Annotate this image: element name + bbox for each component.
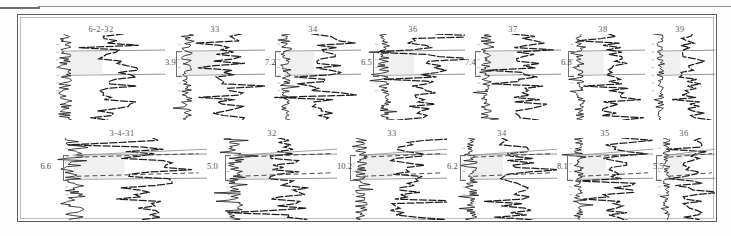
interval-thickness-value: 7.2 xyxy=(265,57,276,67)
log-panel[interactable]: 6-2-32 xyxy=(37,16,165,120)
panel-header-label: 34 xyxy=(447,128,557,138)
resistivity-trace xyxy=(487,34,553,120)
log-panel[interactable]: 333.9 xyxy=(165,16,265,120)
marked-interval-shading xyxy=(285,51,314,75)
panel-header-label: 32 xyxy=(207,128,337,138)
panel-header-label: 37 xyxy=(465,24,561,34)
panel-header-label: 3-4-31 xyxy=(37,128,207,138)
interval-thickness-value: 5.0 xyxy=(207,161,218,171)
interval-bracket xyxy=(475,51,481,77)
log-panel[interactable]: 377.4 xyxy=(465,16,561,120)
interval-thickness-value: 6.5 xyxy=(361,57,372,67)
log-panel[interactable]: 358.1 xyxy=(557,120,653,220)
panel-header-label: 6-2-32 xyxy=(37,24,165,34)
resistivity-trace xyxy=(672,34,711,120)
plate-content: 6-2-32333.9347.2366.5377.4386.839 3-4-31… xyxy=(19,16,715,220)
panel-row-2: 3-4-316.6325.03310.2346.2358.1365.5 xyxy=(19,120,715,220)
log-panel[interactable]: 3-4-316.6 xyxy=(37,120,207,220)
panel-header-label: 36 xyxy=(653,128,715,138)
log-panel[interactable]: 365.5 xyxy=(653,120,715,220)
interval-bracket xyxy=(460,155,466,181)
marked-interval-shading xyxy=(186,51,216,75)
interval-bracket xyxy=(373,51,379,77)
log-panel[interactable]: 325.0 xyxy=(207,120,337,220)
panel-row-1: 6-2-32333.9347.2366.5377.4386.839 xyxy=(19,16,715,120)
resistivity-trace xyxy=(577,34,644,120)
panel-header-label: 33 xyxy=(337,128,447,138)
log-trace-area xyxy=(653,138,715,220)
interval-bracket xyxy=(275,51,281,77)
depth-scale xyxy=(56,44,59,91)
figure-root: 6-2-32333.9347.2366.5377.4386.839 3-4-31… xyxy=(0,0,731,236)
log-panel[interactable]: 346.2 xyxy=(447,120,557,220)
resistivity-trace xyxy=(79,34,139,120)
marked-interval-shading xyxy=(73,155,124,179)
log-panel[interactable]: 3310.2 xyxy=(337,120,447,220)
log-panel[interactable]: 347.2 xyxy=(265,16,361,120)
log-trace-area xyxy=(37,34,165,120)
panel-header-label: 34 xyxy=(265,24,361,34)
interval-bracket xyxy=(567,155,573,181)
interval-thickness-value: 6.8 xyxy=(561,57,572,67)
log-panel[interactable]: 39 xyxy=(645,16,715,120)
panel-header-label: 33 xyxy=(165,24,265,34)
correlation-datum-line xyxy=(63,50,165,51)
marked-interval-shading xyxy=(470,155,503,179)
log-panel[interactable]: 386.8 xyxy=(561,16,645,120)
panel-header-label: 35 xyxy=(557,128,653,138)
interval-thickness-value: 6.2 xyxy=(447,161,458,171)
log-panel[interactable]: 366.5 xyxy=(361,16,465,120)
scan-artifact-line-left xyxy=(0,7,40,9)
panel-header-label: 38 xyxy=(561,24,645,34)
interval-thickness-value: 7.4 xyxy=(465,57,476,67)
interval-thickness-value: 8.1 xyxy=(557,161,568,171)
panel-header-label: 36 xyxy=(361,24,465,34)
gamma-ray-trace xyxy=(653,34,664,120)
interval-bracket xyxy=(63,155,69,181)
interval-thickness-value: 6.6 xyxy=(40,161,51,171)
log-trace-area xyxy=(645,34,715,120)
interval-bracket xyxy=(176,51,182,77)
interval-thickness-value: 10.2 xyxy=(337,161,352,171)
interval-thickness-value: 5.5 xyxy=(653,161,664,171)
correlation-datum-line xyxy=(658,50,715,51)
interval-thickness-value: 3.9 xyxy=(165,57,176,67)
gamma-ray-trace xyxy=(57,34,72,120)
panel-header-label: 39 xyxy=(645,24,715,34)
interval-bracket xyxy=(225,155,231,181)
depth-scale xyxy=(651,44,654,91)
scan-artifact-line-top xyxy=(38,6,731,7)
resistivity-trace xyxy=(195,34,265,120)
